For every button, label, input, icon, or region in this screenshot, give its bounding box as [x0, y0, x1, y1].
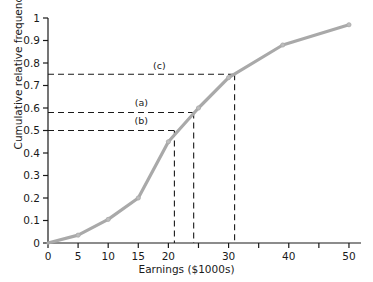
x-tick-label: 40	[282, 250, 295, 262]
y-tick-label: 0.9	[23, 34, 40, 46]
data-point	[166, 140, 170, 144]
x-tick-label: 15	[132, 250, 145, 262]
x-tick-label: 30	[222, 250, 235, 262]
y-tick-label: 1	[33, 12, 40, 24]
x-axis-title: Earnings ($1000s)	[0, 263, 373, 275]
x-tick-label: 5	[75, 250, 82, 262]
annotation-label: (b)	[135, 115, 148, 126]
x-tick-label: 0	[45, 250, 52, 262]
series-line	[48, 25, 349, 243]
annotation-label: (c)	[153, 60, 166, 71]
annotation-labels: (c)(a)(b)	[135, 60, 166, 126]
chart-figure: 00.10.20.30.40.50.60.70.80.9105101520304…	[0, 0, 373, 282]
y-tick-label: 0.6	[23, 102, 40, 114]
data-point	[281, 43, 285, 47]
y-tick-label: 0.8	[23, 57, 40, 69]
data-point	[347, 23, 351, 27]
data-series	[48, 23, 351, 243]
y-tick-label: 0.5	[23, 124, 40, 136]
y-tick-label: 0.7	[23, 79, 40, 91]
data-point	[196, 106, 200, 110]
x-tick-label: 10	[102, 250, 115, 262]
tick-labels: 00.10.20.30.40.50.60.70.80.9105101520304…	[23, 12, 355, 262]
data-point	[226, 76, 230, 80]
tick-marks	[43, 18, 349, 248]
data-point	[76, 233, 80, 237]
y-tick-label: 0.2	[23, 192, 40, 204]
axes	[48, 18, 361, 243]
x-tick-label: 50	[342, 250, 355, 262]
data-point	[136, 196, 140, 200]
y-tick-label: 0.4	[23, 147, 40, 159]
y-tick-label: 0.1	[23, 214, 40, 226]
y-tick-label: 0.3	[23, 169, 40, 181]
chart-canvas: 00.10.20.30.40.50.60.70.80.9105101520304…	[0, 0, 373, 282]
x-tick-label: 20	[162, 250, 175, 262]
data-point	[106, 217, 110, 221]
annotation-label: (a)	[135, 97, 148, 108]
y-tick-label: 0	[33, 237, 40, 249]
y-axis-title: Cumulative relative frequency	[12, 0, 24, 160]
